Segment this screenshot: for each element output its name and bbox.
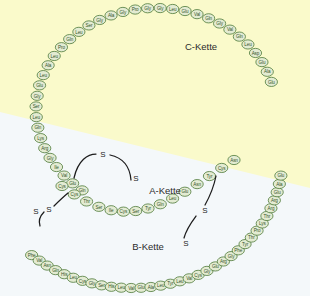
bead-label: Asn xyxy=(193,182,201,187)
bead-label: Gln xyxy=(157,202,164,207)
bead-label: Thr xyxy=(83,199,90,204)
bead-label: Gly xyxy=(96,18,103,23)
residue-bead: Cys xyxy=(216,163,228,172)
residue-bead: Gln xyxy=(32,123,44,132)
bead-label: Val xyxy=(128,286,134,291)
residue-bead: Gly xyxy=(31,91,43,100)
bead-label: Glu xyxy=(138,285,145,290)
bead-label: Glu xyxy=(36,83,43,88)
residue-bead: Tyr xyxy=(203,171,215,180)
bead-label: Arg xyxy=(41,146,48,151)
bead-label: Cys xyxy=(218,166,226,171)
residue-bead: Val xyxy=(191,10,203,19)
residue-bead: Ala xyxy=(105,11,117,20)
residue-bead: Glu xyxy=(33,81,45,90)
residue-bead: Thr xyxy=(80,197,92,206)
bead-label: Asn xyxy=(230,158,238,163)
residue-bead: Ile xyxy=(50,162,62,171)
residue-bead: Ser xyxy=(130,206,142,215)
residue-bead: Pro xyxy=(129,5,141,14)
bead-label: Arg xyxy=(268,206,275,211)
bead-label: Val xyxy=(186,276,192,281)
bead-label: Pro xyxy=(58,45,65,50)
bead-label: Val xyxy=(36,258,42,263)
bead-label: Gly xyxy=(216,21,223,26)
bead-label: Gly xyxy=(228,254,235,259)
residue-bead: Leu xyxy=(30,113,42,122)
bead-label: Gly xyxy=(144,6,151,11)
bead-label: Gly xyxy=(120,10,127,15)
bead-label: Tyr xyxy=(206,174,213,179)
bead-label: Lys xyxy=(259,221,266,226)
bead-label: Ala xyxy=(45,63,52,68)
bead-label: Tyr xyxy=(145,206,152,211)
bead-label: Ala xyxy=(108,13,115,18)
bead-label: Gln xyxy=(236,34,243,39)
residue-bead: Gln xyxy=(154,200,166,209)
residue-bead: Leu xyxy=(48,51,60,60)
residue-bead: Gly xyxy=(44,153,56,162)
residue-bead: Leu xyxy=(242,40,254,49)
bead-label: Gly xyxy=(34,94,41,99)
residue-bead: Ala xyxy=(273,179,285,188)
bead-label: Pro xyxy=(132,7,139,12)
residue-bead: Arg xyxy=(268,196,280,205)
bead-label: Leu xyxy=(244,42,252,47)
bead-label: Gln xyxy=(34,125,41,130)
bead-label: Leu xyxy=(118,285,126,290)
residue-bead: Cys xyxy=(56,181,68,190)
residue-bead: Leu xyxy=(37,71,49,80)
bead-label: Leu xyxy=(169,7,177,12)
residue-bead: Gly xyxy=(154,3,166,12)
bead-label: Ser xyxy=(98,283,105,288)
residue-bead: Ile xyxy=(105,206,117,215)
bead-label: Leu xyxy=(51,54,59,59)
bead-label: Glu xyxy=(277,173,284,178)
bead-label: Gly xyxy=(89,281,96,286)
residue-bead: Ala xyxy=(261,67,273,76)
residue-bead: Pro xyxy=(55,43,67,52)
bead-label: Arg xyxy=(271,198,278,203)
residue-bead: Gly xyxy=(117,7,129,16)
bead-label: Gly xyxy=(157,6,164,11)
bead-label: Arg xyxy=(220,259,227,264)
bead-label: Tyr xyxy=(242,242,249,247)
bead-label: Ser xyxy=(33,104,40,109)
bead-label: Leu xyxy=(75,30,83,35)
bead-label: Gly xyxy=(47,156,54,161)
bead-label: Ser xyxy=(85,23,92,28)
bead-label: Ile xyxy=(109,208,114,213)
bead-label: Leu xyxy=(169,196,177,201)
residue-bead: Asp xyxy=(249,48,261,57)
bead-label: Glu xyxy=(212,264,219,269)
residue-bead: Gly xyxy=(142,4,154,13)
bead-label: Glu xyxy=(181,189,188,194)
bead-label: His xyxy=(108,284,115,289)
residue-bead: Glu xyxy=(271,188,283,197)
c-chain-label: C-Kette xyxy=(185,41,217,52)
bead-label: Pro xyxy=(254,228,261,233)
residue-bead: Ser xyxy=(93,202,105,211)
bead-label: Leu xyxy=(157,283,165,288)
residue-bead: Arg xyxy=(39,144,51,153)
residue-bead: Asn xyxy=(228,155,240,164)
bead-label: Leu xyxy=(40,73,48,78)
bead-label: Thr xyxy=(264,214,271,219)
bead-label: Ala xyxy=(264,69,271,74)
sulfur-label-a7: S xyxy=(46,205,51,214)
bead-label: Phe xyxy=(234,248,242,253)
bead-label: Cys xyxy=(120,209,128,214)
bead-label: Ala xyxy=(276,182,283,187)
residue-bead: Val xyxy=(224,25,236,34)
residue-bead: Leu xyxy=(167,4,179,13)
residue-bead: Gly xyxy=(213,19,225,28)
residue-bead: Asn xyxy=(191,180,203,189)
bead-label: Ile xyxy=(54,165,59,170)
bead-label: Gln xyxy=(205,16,212,21)
bead-label: Val xyxy=(194,12,200,17)
residue-bead: Gln xyxy=(64,35,76,44)
residue-bead: Val xyxy=(58,171,70,180)
bead-label: Ala xyxy=(148,285,155,290)
bead-label: Glu xyxy=(69,181,76,186)
b-chain-label: B-Kette xyxy=(132,241,164,252)
